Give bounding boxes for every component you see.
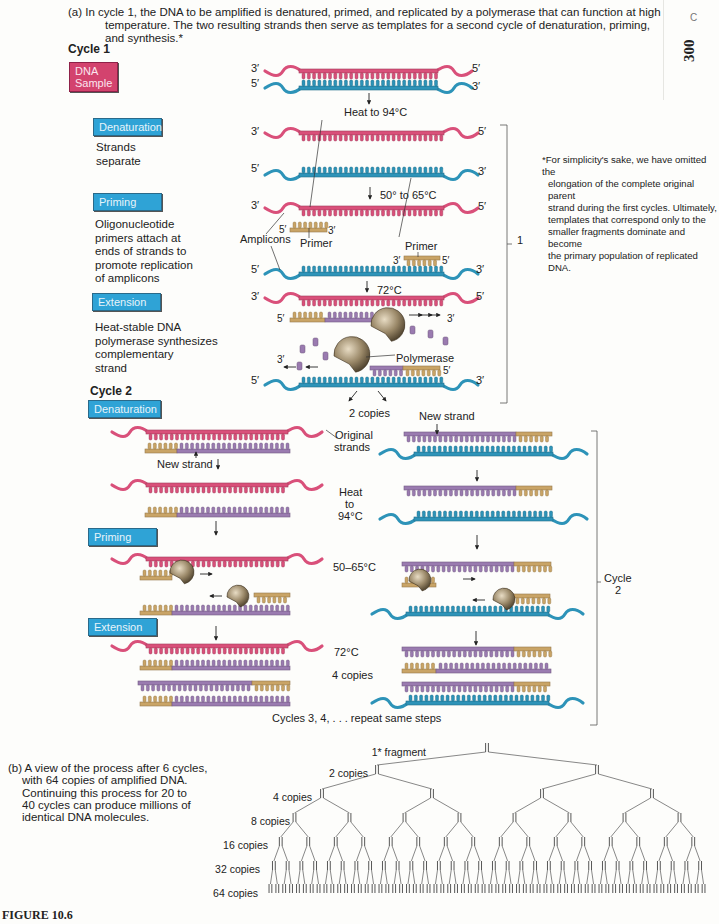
base-tooth <box>441 606 444 612</box>
strand-tail-left <box>372 699 408 708</box>
base-tooth <box>213 561 216 567</box>
base-tooth <box>497 663 500 669</box>
base-tooth <box>382 80 385 86</box>
base-tooth <box>422 446 425 452</box>
base-tooth <box>403 300 406 306</box>
base-tooth <box>307 167 310 173</box>
base-tooth <box>428 260 431 266</box>
nucleotide-icon <box>410 326 415 334</box>
base-tooth <box>255 696 258 702</box>
base-tooth <box>376 377 379 383</box>
tree-branch <box>394 870 401 884</box>
base-tooth <box>202 434 205 440</box>
base-tooth <box>355 135 358 141</box>
dna-copy <box>451 861 454 870</box>
primer-segment <box>140 570 173 580</box>
label-5prime: 5′ <box>251 374 259 386</box>
base-tooth <box>523 446 526 452</box>
base-tooth <box>282 561 285 567</box>
base-tooth <box>444 436 447 442</box>
base-tooth <box>513 436 516 442</box>
tree-branch <box>655 870 662 884</box>
base-tooth <box>344 167 347 173</box>
primer-segment <box>145 443 178 453</box>
base-tooth <box>423 436 426 442</box>
base-tooth <box>547 606 550 612</box>
dna-copy <box>475 884 478 893</box>
base-tooth <box>382 73 385 79</box>
dna-copy <box>283 884 286 893</box>
base-tooth <box>282 685 285 691</box>
base-tooth <box>318 80 321 86</box>
base-tooth <box>260 648 263 654</box>
cycle1-bracket <box>500 125 512 403</box>
dna-copy <box>352 884 355 893</box>
base-tooth <box>260 507 263 513</box>
base-tooth <box>293 312 296 318</box>
base-tooth <box>222 507 225 513</box>
primer-segment <box>402 663 436 673</box>
base-tooth <box>286 605 289 611</box>
base-tooth <box>323 377 326 383</box>
tree-branch <box>353 870 360 884</box>
base-tooth <box>424 300 427 306</box>
base-tooth <box>194 685 197 691</box>
base-tooth <box>257 597 260 603</box>
primer-segment <box>140 660 173 670</box>
base-tooth <box>344 73 347 79</box>
base-tooth <box>176 434 179 440</box>
backbone <box>299 296 444 300</box>
base-tooth <box>260 696 263 702</box>
base-tooth <box>462 695 465 701</box>
base-tooth <box>355 167 358 173</box>
dna-copy <box>479 861 482 870</box>
tree-level-label: 1* fragment <box>372 746 426 758</box>
tree-branch <box>545 870 552 884</box>
nucleotide-icon <box>428 330 433 338</box>
dna-copy <box>400 884 403 893</box>
base-tooth <box>344 210 347 216</box>
base-tooth <box>318 210 321 216</box>
base-tooth <box>169 507 172 513</box>
base-tooth <box>384 370 387 376</box>
strand-tail-left <box>112 555 148 564</box>
base-tooth <box>428 436 431 442</box>
base-tooth <box>355 80 358 86</box>
base-tooth <box>313 135 316 141</box>
base-tooth <box>366 210 369 216</box>
base-tooth <box>422 370 425 376</box>
base-tooth <box>160 648 163 654</box>
base-tooth <box>360 135 363 141</box>
base-tooth <box>344 377 347 383</box>
dna-copy <box>327 861 330 870</box>
polymerase-icon <box>227 585 249 607</box>
label-3prime: 3′ <box>476 374 484 386</box>
base-tooth <box>470 446 473 452</box>
base-tooth <box>249 605 252 611</box>
base-tooth <box>453 686 456 692</box>
base-tooth <box>191 487 194 493</box>
base-tooth <box>298 222 301 228</box>
base-tooth <box>532 598 535 604</box>
base-tooth <box>429 80 432 86</box>
base-tooth <box>408 80 411 86</box>
base-tooth <box>197 434 200 440</box>
base-tooth <box>410 651 413 657</box>
base-tooth <box>538 651 541 657</box>
base-tooth <box>360 167 363 173</box>
dna-copy <box>382 861 385 870</box>
base-tooth <box>344 135 347 141</box>
dna-copy <box>303 884 306 893</box>
polymerase-body <box>227 585 249 607</box>
strand-segment <box>414 446 553 456</box>
base-tooth <box>355 300 358 306</box>
base-tooth <box>153 507 156 513</box>
dna-copy <box>465 861 468 870</box>
base-tooth <box>191 648 194 654</box>
base-tooth <box>170 696 173 702</box>
polymerase-body <box>409 569 431 591</box>
dna-copy <box>317 884 320 893</box>
dna-copy <box>644 861 647 870</box>
base-tooth <box>159 660 162 666</box>
backbone <box>140 666 172 670</box>
